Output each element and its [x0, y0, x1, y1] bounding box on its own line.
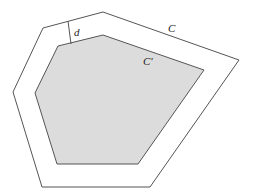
- distance-label-d: d: [74, 26, 80, 38]
- outer-label-c: C: [168, 22, 176, 34]
- offset-polygon-diagram: d C C': [0, 0, 254, 195]
- inner-label-c-prime: C': [143, 55, 153, 67]
